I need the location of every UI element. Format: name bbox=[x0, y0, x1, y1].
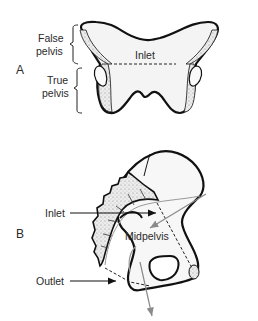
pubic-symphysis bbox=[189, 265, 199, 279]
midpelvis-label: Midpelvis bbox=[125, 230, 169, 242]
false-pelvis-label-line1: False bbox=[38, 32, 64, 44]
true-pelvis-bracket bbox=[74, 68, 82, 113]
figure-a: Inlet False pelvis True pelvis A bbox=[16, 22, 218, 113]
outlet-label: Outlet bbox=[36, 275, 64, 287]
figure-b: Inlet Midpelvis Outlet B bbox=[16, 151, 206, 316]
false-pelvis-bracket bbox=[70, 25, 78, 64]
panel-label-a: A bbox=[16, 63, 24, 77]
false-pelvis-label-line2: pelvis bbox=[36, 45, 63, 57]
true-pelvis-label-line2: pelvis bbox=[42, 87, 69, 99]
panel-label-b: B bbox=[16, 227, 24, 241]
inlet-label-a: Inlet bbox=[135, 49, 155, 61]
inlet-label-b: Inlet bbox=[45, 207, 65, 219]
true-pelvis-label-line1: True bbox=[47, 74, 68, 86]
pelvis-diagram: Inlet False pelvis True pelvis A bbox=[0, 0, 258, 321]
